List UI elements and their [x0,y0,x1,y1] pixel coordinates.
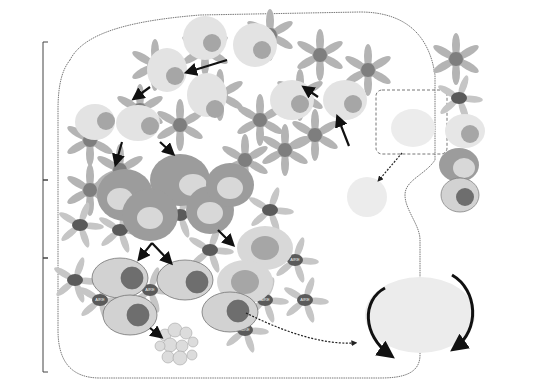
region-bracket [43,42,48,372]
clp-cell [391,109,435,147]
aire-label: AIRE [300,297,310,302]
legend-graphics [431,33,485,212]
etp-cell [347,177,387,217]
aire-label: AIRE [95,297,105,302]
aire-label: AIRE [290,257,300,262]
aire-label: AIRE [145,287,155,292]
diagram-graphics: AIRE AIRE AIRE AIRE AIRE AIRE [0,0,550,387]
thymus-diagram: AIRE AIRE AIRE AIRE AIRE AIRE [0,0,550,387]
